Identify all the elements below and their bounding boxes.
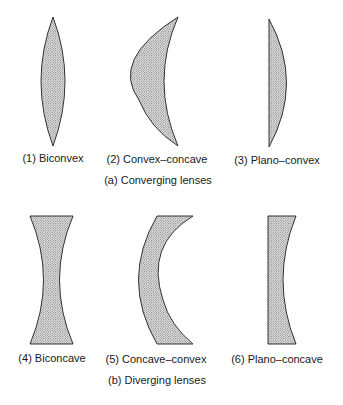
biconcave-lens [30,216,73,344]
label-biconvex: (1) Biconvex [22,152,83,165]
convex-concave-lens [130,17,178,146]
label-plano-concave: (6) Plano–concave [231,353,323,366]
label-biconcave: (4) Biconcave [18,352,85,365]
label-concave-convex: (5) Concave–convex [106,353,207,366]
label-plano-convex: (3) Plano–convex [234,154,320,167]
plano-concave-lens [268,216,296,344]
plano-convex-lens [269,19,287,147]
caption-converging-lenses: (a) Converging lenses [104,174,212,187]
caption-diverging-lenses: (b) Diverging lenses [108,374,206,387]
concave-convex-lens [139,216,194,344]
lens-diagram [0,0,343,405]
label-convex-concave: (2) Convex–concave [107,153,208,166]
biconvex-lens [41,17,65,146]
